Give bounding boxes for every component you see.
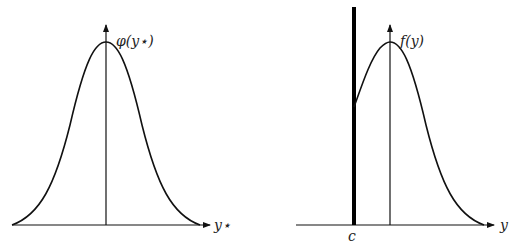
left-panel: φ(y⋆) y⋆ <box>12 25 231 233</box>
right-x-axis-label: y <box>499 217 509 233</box>
left-x-axis-label: y⋆ <box>213 217 231 233</box>
right-y-axis-label: f(y) <box>399 33 424 49</box>
truncation-point-label: c <box>348 228 356 244</box>
diagram-canvas: φ(y⋆) y⋆ f(y) y c <box>0 0 524 250</box>
right-panel: f(y) y c <box>296 7 509 244</box>
truncated-density-curve <box>354 42 484 225</box>
left-y-axis-label: φ(y⋆) <box>116 33 154 49</box>
